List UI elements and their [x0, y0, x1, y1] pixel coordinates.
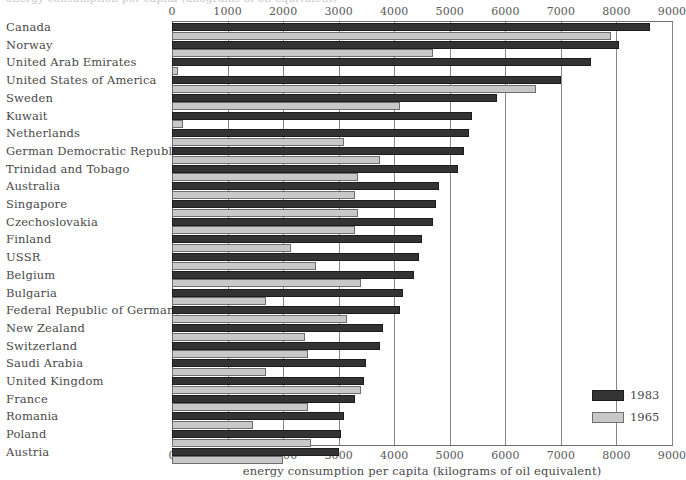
bar-1983 [172, 182, 439, 190]
bar-1983 [172, 235, 422, 243]
bar-1965 [172, 173, 358, 181]
legend-item-1983: 1983 [592, 388, 674, 404]
bar-1965 [172, 297, 266, 305]
tick-label-top-1000: 1000 [213, 5, 241, 18]
category-label: Australia [6, 179, 160, 193]
tick-label-top-0: 0 [168, 5, 175, 18]
category-label: Belgium [6, 268, 160, 282]
bar-1983 [172, 23, 650, 31]
top-clipped-caption: energy consumption per capita (kilograms… [6, 0, 337, 4]
category-label: Romania [6, 409, 160, 423]
category-label: Federal Republic of Germany [6, 303, 160, 317]
bar-1965 [172, 368, 266, 376]
bar-1965 [172, 156, 380, 164]
category-label: USSR [6, 250, 160, 264]
category-label: New Zealand [6, 321, 160, 335]
bar-1965 [172, 333, 305, 341]
tick-label-top-9000: 9000 [658, 5, 686, 18]
bar-1983 [172, 395, 355, 403]
bar-1965 [172, 85, 536, 93]
legend-label-1983: 1983 [630, 388, 659, 402]
tick-label-top-5000: 5000 [436, 5, 464, 18]
tick-label-bottom-8000: 8000 [602, 449, 630, 462]
bar-1965 [172, 262, 316, 270]
bar-1983 [172, 147, 464, 155]
gridline-9000 [672, 22, 673, 445]
bar-1965 [172, 209, 358, 217]
legend-label-1965: 1965 [630, 410, 659, 424]
bar-1983 [172, 76, 561, 84]
bar-1965 [172, 386, 361, 394]
bar-1965 [172, 49, 433, 57]
bar-1983 [172, 430, 341, 438]
bar-1965 [172, 403, 308, 411]
bar-1983 [172, 41, 619, 49]
tick-label-top-3000: 3000 [324, 5, 352, 18]
bar-1965 [172, 32, 611, 40]
category-label: Netherlands [6, 126, 160, 140]
plot-area [172, 22, 672, 445]
bar-1983 [172, 112, 472, 120]
bar-1965 [172, 244, 291, 252]
bar-1965 [172, 315, 347, 323]
bar-1965 [172, 138, 344, 146]
tick-label-bottom-6000: 6000 [491, 449, 519, 462]
tick-label-bottom-9000: 9000 [658, 449, 686, 462]
category-label: Singapore [6, 197, 160, 211]
tick-label-top-8000: 8000 [602, 5, 630, 18]
bar-1983 [172, 342, 380, 350]
bar-1965 [172, 226, 355, 234]
category-label: United Arab Emirates [6, 55, 160, 69]
bar-1983 [172, 412, 344, 420]
bar-1983 [172, 253, 419, 261]
category-label: Austria [6, 445, 160, 459]
bar-1983 [172, 200, 436, 208]
category-label: United Kingdom [6, 374, 160, 388]
tick-label-top-7000: 7000 [547, 5, 575, 18]
x-axis-title: energy consumption per capita (kilograms… [172, 464, 672, 478]
category-label: Norway [6, 38, 160, 52]
bar-1983 [172, 218, 433, 226]
tick-label-bottom-7000: 7000 [547, 449, 575, 462]
bar-1983 [172, 324, 383, 332]
category-label: Canada [6, 20, 160, 34]
category-label: Switzerland [6, 339, 160, 353]
bar-1983 [172, 448, 339, 456]
category-label: German Democratic Republic [6, 144, 160, 158]
bar-1983 [172, 359, 366, 367]
category-label: France [6, 392, 160, 406]
legend-item-1965: 1965 [592, 410, 674, 426]
gridline-8000 [616, 22, 617, 445]
bar-1965 [172, 191, 355, 199]
bar-1983 [172, 58, 591, 66]
bar-1965 [172, 421, 253, 429]
bar-1965 [172, 102, 400, 110]
category-label: Kuwait [6, 109, 160, 123]
legend-swatch-1983 [592, 390, 624, 401]
category-label: Poland [6, 427, 160, 441]
tick-label-top-4000: 4000 [380, 5, 408, 18]
chart-legend: 1983 1965 [592, 388, 674, 430]
category-label: Trinidad and Tobago [6, 162, 160, 176]
bar-1965 [172, 350, 308, 358]
category-label: Bulgaria [6, 286, 160, 300]
bar-1965 [172, 67, 178, 75]
bar-1983 [172, 165, 458, 173]
bar-1983 [172, 129, 469, 137]
category-label: Saudi Arabia [6, 356, 160, 370]
bar-1983 [172, 289, 403, 297]
bar-1983 [172, 271, 414, 279]
bar-1965 [172, 279, 361, 287]
category-label: Czechoslovakia [6, 215, 160, 229]
legend-swatch-1965 [592, 412, 624, 423]
tick-label-top-6000: 6000 [491, 5, 519, 18]
category-label: Sweden [6, 91, 160, 105]
bar-1983 [172, 306, 400, 314]
tick-label-bottom-4000: 4000 [380, 449, 408, 462]
category-label: Finland [6, 232, 160, 246]
tick-label-bottom-5000: 5000 [436, 449, 464, 462]
gridline-7000 [561, 22, 562, 445]
bar-1983 [172, 94, 497, 102]
category-label: United States of America [6, 73, 160, 87]
